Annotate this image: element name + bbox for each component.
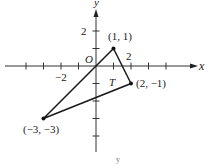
vertex-point-2-neg1 bbox=[129, 82, 133, 86]
vertex-label-2-neg1: (2, −1) bbox=[136, 77, 166, 90]
footer-label: y bbox=[116, 155, 120, 164]
x-axis bbox=[5, 63, 198, 70]
triangle-label: T bbox=[109, 76, 116, 88]
y-axis bbox=[93, 9, 100, 152]
x-tick-label-2: 2 bbox=[126, 50, 132, 62]
origin-label: O bbox=[85, 53, 93, 65]
y-axis-label: y bbox=[93, 0, 99, 8]
vertex-point-neg3-neg3 bbox=[42, 117, 46, 121]
vertex-label-1-1: (1, 1) bbox=[108, 30, 132, 43]
y-tick-label-2: 2 bbox=[81, 25, 87, 37]
x-tick-label-neg2: −2 bbox=[55, 71, 67, 83]
vertex-point-1-1 bbox=[112, 47, 116, 51]
x-axis-arrow-icon bbox=[190, 64, 198, 69]
vertex-label-neg3-neg3: (−3, −3) bbox=[23, 123, 60, 136]
coordinate-plane-diagram: y x O 2 2 −2 T (1, 1) (2, −1) (−3, −3) y bbox=[0, 0, 208, 164]
y-axis-arrow-icon bbox=[94, 9, 99, 17]
x-axis-label: x bbox=[198, 59, 205, 73]
